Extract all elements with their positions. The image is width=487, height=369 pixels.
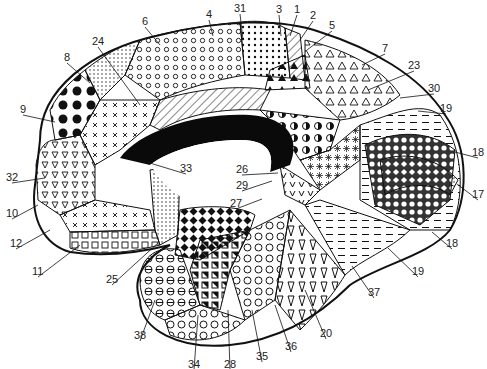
area-label-6: 6 (142, 16, 148, 27)
area-label-12: 12 (10, 238, 22, 249)
area-label-33: 33 (180, 163, 192, 174)
area-label-2: 2 (310, 10, 316, 21)
area-label-32: 32 (6, 172, 18, 183)
area-label-26: 26 (236, 164, 248, 175)
area-label-18b: 18 (446, 238, 458, 249)
area-label-18: 18 (472, 147, 484, 158)
leader-line-11 (38, 245, 80, 277)
area-label-27: 27 (230, 198, 242, 209)
area-label-10: 10 (6, 208, 18, 219)
area-label-4: 4 (206, 9, 212, 20)
area-label-38: 38 (134, 330, 146, 341)
area-label-17: 17 (472, 189, 484, 200)
area-label-29: 29 (236, 180, 248, 191)
area-label-31: 31 (234, 3, 246, 14)
area-label-35: 35 (256, 351, 268, 362)
area-label-5: 5 (329, 20, 335, 31)
area-label-8: 8 (64, 52, 70, 63)
brodmann-medial-diagram: 3143125624872330199181733262927321012112… (0, 0, 487, 369)
area-label-23: 23 (408, 60, 420, 71)
area-label-34: 34 (188, 359, 200, 369)
area-label-7: 7 (382, 43, 388, 54)
area-label-36: 36 (285, 341, 297, 352)
area-label-19b: 19 (412, 266, 424, 277)
area-label-25: 25 (106, 274, 118, 285)
area-label-20: 20 (320, 328, 332, 339)
area-label-3: 3 (276, 4, 282, 15)
area-label-37: 37 (368, 287, 380, 298)
area-label-19: 19 (440, 103, 452, 114)
area-label-30: 30 (428, 83, 440, 94)
area-label-1: 1 (294, 4, 300, 15)
area-label-9: 9 (20, 104, 26, 115)
area-label-24: 24 (92, 36, 104, 47)
area-label-11: 11 (32, 266, 43, 277)
area-label-28: 28 (224, 359, 236, 369)
